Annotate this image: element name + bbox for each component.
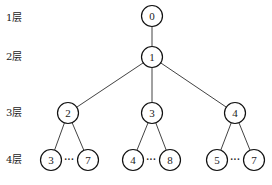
- node-label: 3: [48, 154, 54, 166]
- ellipsis-dots: ···: [146, 154, 156, 165]
- tree-edge: [239, 123, 250, 151]
- node-label: 1: [149, 51, 155, 63]
- tree-node: 3: [41, 150, 62, 171]
- tree-diagram: 1层2层3层4层 01234374857·········: [0, 0, 272, 185]
- node-label: 5: [214, 154, 220, 166]
- tree-node: 1: [142, 47, 163, 68]
- tree-node: 0: [142, 6, 163, 27]
- node-label: 2: [65, 107, 71, 119]
- tree-edge: [161, 63, 227, 107]
- node-label: 4: [130, 154, 136, 166]
- node-label: 7: [85, 154, 91, 166]
- tree-edge: [156, 123, 166, 150]
- tree-node: 7: [78, 150, 99, 171]
- node-label: 7: [251, 154, 257, 166]
- tree-edge: [72, 123, 84, 151]
- tree-edge: [221, 123, 231, 150]
- tree-node: 2: [58, 103, 79, 124]
- tree-node: 4: [123, 150, 144, 171]
- tree-node: 3: [142, 103, 163, 124]
- tree-node: 5: [207, 150, 228, 171]
- node-label: 8: [167, 154, 173, 166]
- tree-edge: [137, 123, 148, 151]
- ellipsis-dots: ···: [230, 154, 240, 165]
- tree-graph: 01234374857·········: [0, 0, 272, 185]
- tree-edge: [55, 123, 65, 150]
- tree-edge: [77, 63, 144, 107]
- tree-node: 4: [225, 103, 246, 124]
- node-label: 0: [149, 10, 155, 22]
- tree-node: 8: [160, 150, 181, 171]
- node-label: 3: [149, 107, 155, 119]
- tree-node: 7: [244, 150, 265, 171]
- node-label: 4: [232, 107, 238, 119]
- ellipsis-dots: ···: [64, 154, 74, 165]
